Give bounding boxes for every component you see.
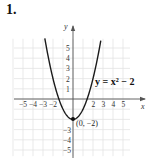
grid (13, 39, 130, 156)
x-tick-label: 2 (92, 100, 96, 109)
x-tick-label: −4 (29, 100, 37, 109)
x-tick-labels: −5−4−3−22345 (19, 100, 126, 109)
x-tick-label: 4 (112, 100, 116, 109)
y-tick-label: 4 (66, 54, 70, 63)
vertex-annotation: (0, −2) (76, 119, 98, 128)
y-tick-label: 5 (66, 44, 70, 53)
y-tick-label: −4 (63, 136, 71, 145)
x-tick-label: 3 (102, 100, 106, 109)
y-axis-arrow-icon (71, 25, 75, 31)
x-tick-label: −3 (39, 100, 47, 109)
y-tick-label: 3 (66, 64, 70, 73)
x-tick-label: 5 (122, 100, 126, 109)
y-tick-label: −5 (63, 146, 71, 155)
x-axis-label: x (140, 102, 145, 111)
y-tick-label: −3 (63, 126, 71, 135)
y-tick-label: 1 (66, 85, 70, 94)
equation-label: y = x² − 2 (95, 76, 134, 87)
x-axis-arrow-icon (140, 97, 146, 101)
x-tick-label: −2 (49, 100, 57, 109)
axes: x y (14, 22, 146, 158)
y-axis-label: y (63, 22, 68, 31)
y-tick-labels: 54321−3−4−5 (63, 44, 71, 155)
parabola-chart: x y −5−4−3−22345 54321−3−4−5 (0, −2) y =… (0, 0, 161, 162)
x-tick-label: −5 (19, 100, 27, 109)
y-tick-label: 2 (66, 75, 70, 84)
vertex-point (71, 117, 75, 121)
